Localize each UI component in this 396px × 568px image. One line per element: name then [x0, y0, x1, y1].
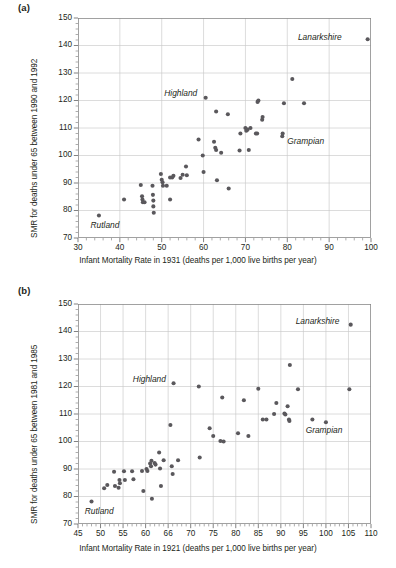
- data-point: [170, 464, 174, 468]
- data-point: [220, 395, 224, 399]
- y-tick-label: 130: [48, 355, 72, 363]
- y-tick-label: 150: [48, 14, 72, 22]
- x-axis-label: Infant Mortality Rate in 1921 (deaths pe…: [0, 544, 396, 553]
- data-point: [214, 148, 218, 152]
- panel-b-label: (b): [18, 285, 30, 296]
- y-tick-label: 150: [48, 300, 72, 308]
- data-point: [287, 419, 291, 423]
- data-point: [242, 398, 246, 402]
- x-tick-label: 70: [232, 244, 258, 252]
- data-point: [302, 101, 306, 105]
- point-annotation: Highland: [78, 375, 166, 383]
- data-point: [198, 455, 202, 459]
- data-point: [227, 186, 231, 190]
- y-tick-label: 120: [48, 96, 72, 104]
- data-point: [236, 431, 240, 435]
- data-point: [158, 466, 162, 470]
- data-point: [310, 417, 314, 421]
- data-point: [255, 131, 259, 135]
- y-axis-label: SMR for deaths under 65 between 1981 and…: [30, 345, 39, 524]
- data-point: [150, 497, 154, 501]
- data-point: [264, 417, 268, 421]
- data-point: [123, 478, 127, 482]
- data-point: [349, 323, 353, 327]
- data-point: [202, 170, 206, 174]
- data-point: [89, 499, 93, 503]
- data-point: [118, 481, 122, 485]
- data-point: [161, 180, 165, 184]
- x-tick-label: 30: [65, 244, 91, 252]
- data-point: [247, 148, 251, 152]
- data-point: [143, 200, 147, 204]
- point-annotation: Lanarkshire: [78, 33, 342, 41]
- panel-a: (a) 708090100110120130140150304050607080…: [0, 0, 396, 284]
- x-tick-label: 100: [358, 244, 384, 252]
- data-point: [256, 387, 260, 391]
- y-axis-label: SMR for deaths under 65 between 1990 and…: [30, 59, 39, 238]
- y-tick-label: 130: [48, 69, 72, 77]
- axis-ticks: [74, 304, 371, 528]
- data-point: [256, 98, 260, 102]
- data-point: [117, 486, 121, 490]
- data-point: [261, 417, 265, 421]
- data-point: [296, 387, 300, 391]
- data-point: [153, 463, 157, 467]
- data-point: [131, 477, 135, 481]
- data-point: [171, 472, 175, 476]
- x-tick-label: 50: [149, 244, 175, 252]
- data-point: [248, 126, 252, 130]
- data-point: [151, 204, 155, 208]
- data-point: [288, 363, 292, 367]
- data-point: [281, 131, 285, 135]
- data-point: [141, 489, 145, 493]
- data-point: [184, 164, 188, 168]
- data-point: [149, 464, 153, 468]
- data-point: [185, 173, 189, 177]
- y-tick-label: 90: [48, 465, 72, 473]
- data-point: [347, 387, 351, 391]
- y-tick-label: 100: [48, 151, 72, 159]
- data-point: [168, 423, 172, 427]
- gridlines: [78, 18, 371, 238]
- data-point: [140, 469, 144, 473]
- data-point: [172, 381, 176, 385]
- y-tick-label: 70: [48, 520, 72, 528]
- data-point: [215, 178, 219, 182]
- y-tick-label: 140: [48, 327, 72, 335]
- data-point: [219, 151, 223, 155]
- data-point: [274, 401, 278, 405]
- x-tick-label: 40: [107, 244, 133, 252]
- data-point: [204, 96, 208, 100]
- data-point: [226, 112, 230, 116]
- y-tick-label: 120: [48, 382, 72, 390]
- point-annotation: Grampian: [306, 426, 343, 434]
- data-point: [324, 420, 328, 424]
- point-annotation: Highland: [78, 89, 197, 97]
- data-point: [272, 412, 276, 416]
- data-point: [157, 450, 161, 454]
- data-point: [176, 458, 180, 462]
- data-point: [238, 131, 242, 135]
- point-annotation: Lanarkshire: [78, 317, 339, 325]
- data-point: [197, 384, 201, 388]
- data-point: [282, 101, 286, 105]
- data-point: [286, 404, 290, 408]
- data-point: [196, 138, 200, 142]
- point-annotation: Rutland: [91, 221, 120, 229]
- data-point: [145, 469, 149, 473]
- x-tick-label: 60: [191, 244, 217, 252]
- scatter-plot-b: 7080901001101201301401504550556066707580…: [78, 304, 371, 524]
- data-point: [112, 470, 116, 474]
- data-point: [283, 413, 287, 417]
- data-point: [171, 174, 175, 178]
- y-tick-label: 80: [48, 492, 72, 500]
- plot-canvas-a: [78, 18, 371, 238]
- data-point: [246, 434, 250, 438]
- data-point: [152, 211, 156, 215]
- x-axis-label: Infant Mortality Rate in 1931 (deaths pe…: [0, 256, 396, 265]
- x-tick-label: 110: [358, 530, 384, 538]
- y-tick-label: 90: [48, 179, 72, 187]
- data-point: [238, 149, 242, 153]
- data-point: [165, 184, 169, 188]
- data-point: [105, 483, 109, 487]
